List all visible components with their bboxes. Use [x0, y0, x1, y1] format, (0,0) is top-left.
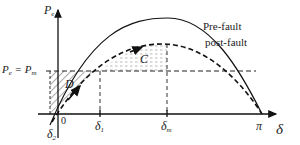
x-axis-label: δ [276, 122, 283, 137]
power-angle-diagram [0, 0, 300, 145]
legend-post-fault: post-fault [205, 37, 247, 48]
pm-label: Pe = Pm [2, 64, 37, 77]
area-d-label: D [65, 78, 74, 90]
deltam-label: δm [161, 120, 172, 134]
area-c-label: C [140, 53, 148, 65]
delta2-label: δ2 [47, 128, 56, 142]
legend-pre-fault: Pre-fault [203, 21, 241, 32]
pi-label: π [256, 120, 262, 132]
origin-label: 0 [61, 116, 66, 126]
y-axis-label: Pe [44, 4, 54, 18]
delta1-label: δ1 [95, 120, 104, 134]
